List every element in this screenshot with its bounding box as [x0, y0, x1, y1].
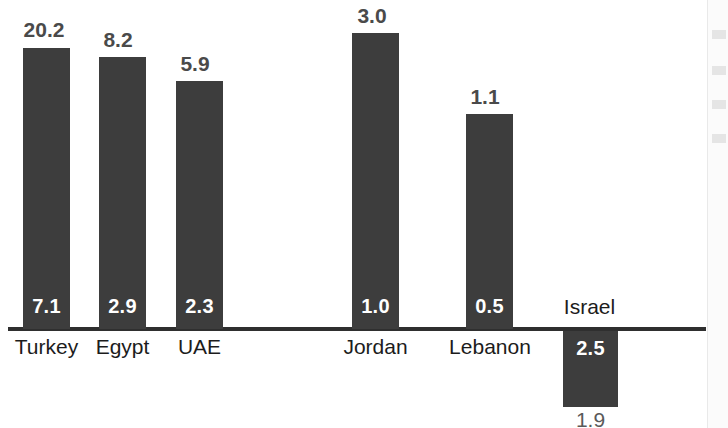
bar-top-value-uae: 5.9: [168, 52, 222, 76]
category-label-uae: UAE: [160, 335, 239, 359]
bar-bottom-value-israel: 1.9: [563, 408, 618, 428]
bar-turkey: [23, 48, 70, 329]
bar-egypt: [99, 57, 146, 329]
bar-top-value-turkey: 20.2: [14, 18, 74, 42]
category-label-jordan: Jordan: [333, 335, 418, 359]
edge-glyph-fragment: [712, 134, 726, 143]
edge-shade: [708, 0, 728, 428]
bar-inner-value-turkey: 7.1: [23, 295, 70, 318]
bar-inner-value-lebanon: 0.5: [466, 295, 513, 318]
edge-glyph-fragment: [712, 66, 726, 75]
page-edge-artifacts: [704, 0, 728, 428]
category-label-israel: Israel: [546, 295, 633, 319]
bar-inner-value-egypt: 2.9: [99, 295, 146, 318]
category-label-lebanon: Lebanon: [437, 335, 543, 359]
category-label-turkey: Turkey: [3, 335, 90, 359]
edge-glyph-fragment: [712, 30, 726, 39]
edge-rule: [707, 0, 708, 428]
plot-area: 20.2 7.1 Turkey 8.2 2.9 Egypt 5.9 2.3 UA…: [0, 0, 728, 428]
edge-glyph-fragment: [712, 100, 726, 109]
bar-top-value-egypt: 8.2: [91, 28, 145, 52]
category-label-egypt: Egypt: [79, 335, 166, 359]
bar-inner-value-israel: 2.5: [563, 337, 618, 360]
bar-chart: 20.2 7.1 Turkey 8.2 2.9 Egypt 5.9 2.3 UA…: [0, 0, 728, 428]
bar-inner-value-uae: 2.3: [176, 295, 223, 318]
bar-inner-value-jordan: 1.0: [352, 295, 399, 318]
bar-jordan: [352, 33, 399, 329]
bar-uae: [176, 81, 223, 329]
bar-top-value-jordan: 3.0: [345, 4, 399, 28]
bar-top-value-lebanon: 1.1: [458, 85, 512, 109]
